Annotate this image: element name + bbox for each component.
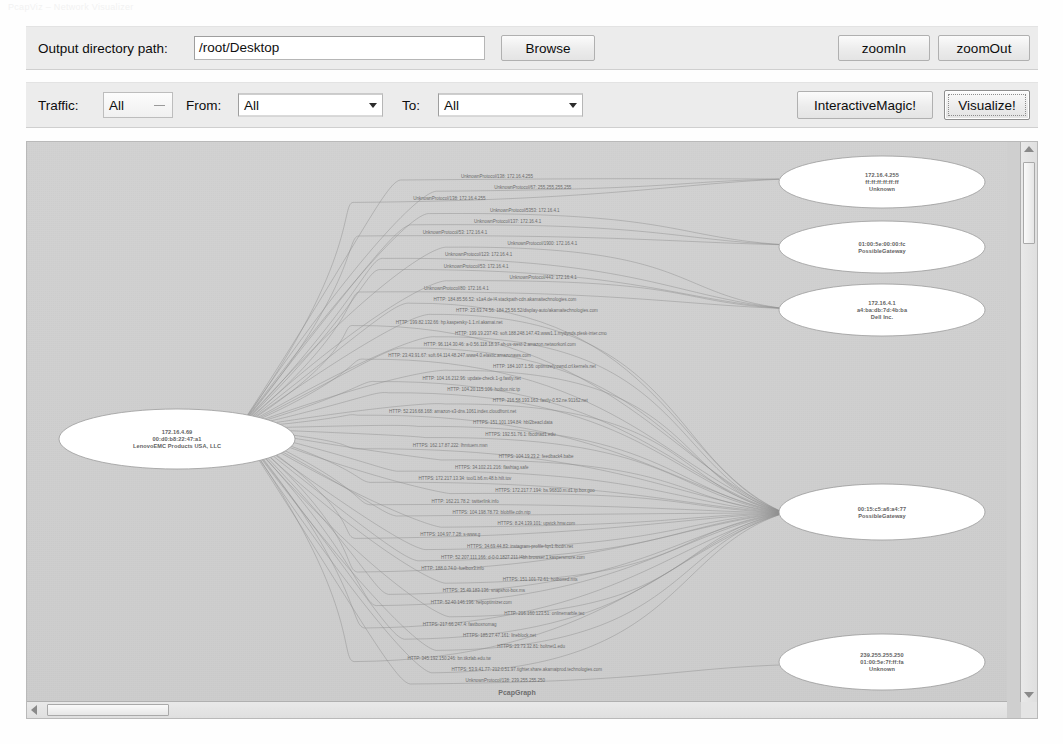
vertical-scrollbar[interactable]: [1020, 142, 1037, 702]
graph-node[interactable]: 00:15:c5:a6:a4:77PossibleGateway: [779, 484, 985, 540]
edge-label: UnknownProtocol/123: 172.16.4.1: [445, 252, 513, 257]
chevron-down-icon: [369, 103, 377, 108]
interactive-magic-button[interactable]: InteractiveMagic!: [797, 91, 933, 119]
edge-label: HTTP: 184.107.1.56: optimizely.cwnd.crl.…: [493, 364, 596, 369]
edge-label: HTTPS: 8.24.139.101: upstck.hnw.com: [498, 521, 576, 526]
edge-label: UnknownProtocol/137: 172.16.4.1: [474, 219, 542, 224]
node-label-line: 172.16.4.1: [868, 300, 895, 306]
scroll-up-icon[interactable]: [1024, 146, 1034, 152]
edge-label: UnknownProtocol/80: 172.16.4.1: [424, 286, 489, 291]
edge-label: UnknownProtocol/53: 172.16.4.1: [423, 230, 488, 235]
graph-node[interactable]: 172.16.4.255ff:ff:ff:ff:ff:ffUnknown: [779, 156, 985, 208]
window-title-strip: PcapViz – Network Visualizer: [0, 0, 1063, 14]
graph-edge: [242, 433, 779, 640]
from-select[interactable]: All: [238, 94, 383, 117]
node-label-line: ff:ff:ff:ff:ff:ff: [865, 179, 898, 185]
edge-label: HTTP: 52.207.111.166: d-0-0.1827.211.l4b…: [441, 555, 585, 560]
vertical-scroll-thumb[interactable]: [1023, 162, 1035, 244]
horizontal-scroll-thumb[interactable]: [47, 704, 169, 716]
zoom-out-button[interactable]: zoomOut: [938, 35, 1030, 61]
edge-label: UnknownProtocol/443: 172.16.4.1: [510, 275, 578, 280]
node-label-line: 172.16.4.69: [162, 429, 193, 435]
graph-edge: [242, 431, 779, 572]
edge-label: UnknownProtocol/53: 172.16.4.1: [444, 264, 509, 269]
application-window: PcapViz – Network Visualizer Output dire…: [0, 0, 1063, 744]
chevron-down-icon: [569, 103, 577, 108]
scrollbar-corner: [1021, 702, 1037, 718]
edge-label: HTTP: 345.192.150.246: bn.tikzlab.edu.tw: [407, 656, 491, 661]
graph-canvas[interactable]: UnknownProtocol/138: 172.16.4.255Unknown…: [27, 142, 1007, 702]
horizontal-scrollbar[interactable]: [27, 701, 1007, 718]
edge-label: HTTPS: 151.101.72.61: hotboxed.mts: [503, 577, 579, 582]
edge-label: HTTPS: 104.97.7.28: s-www.g: [420, 532, 481, 537]
graph-edge: [242, 415, 779, 512]
graph-node[interactable]: 172.16.4.1a4:ba:db:7d:4b:baDell Inc.: [779, 284, 985, 336]
node-label-line: PossibleGateway: [858, 513, 906, 519]
node-label-line: 239.255.255.250: [860, 652, 904, 658]
edge-label: UnknownProtocol/1900: 172.16.4.1: [507, 241, 577, 246]
to-label: To:: [402, 98, 420, 113]
edge-label: HTTPS: 34.69.44.83: instagram-profile-fq…: [467, 544, 574, 549]
edge-label: HTTPS: 35.49.183.136: snapshot-box.ms: [443, 588, 526, 593]
edge-label: HTTP: 216.58.193.163: fastly-0.52.ne.911…: [493, 398, 589, 403]
edge-label: HTTP: 199.82.132.66: hp.kaspersky-1.1.nl…: [396, 320, 504, 325]
graph-node[interactable]: 239.255.255.25001:00:5e:7f:ff:faUnknown: [779, 634, 985, 690]
to-select[interactable]: All: [438, 94, 583, 117]
edge-label: HTTPS: 172.217.7.194: bs.96810.m.d1.tp.b…: [495, 488, 595, 493]
edge-label: HTTPS: 185.27.47.161: lineblock.net: [463, 633, 537, 638]
node-label-line: 01:00:5e:00:00:fc: [858, 241, 905, 247]
edge-label: HTTPS: 172.217.13.34: tool1.b6.m.48.b.hi…: [418, 476, 512, 481]
traffic-select[interactable]: All: [103, 92, 173, 118]
chevron-down-icon: [154, 105, 165, 106]
edge-label: HTTPS: 53.9.41.77: 212.0.51.97.tighter.s…: [452, 667, 603, 672]
node-label-line: 172.16.4.255: [865, 172, 899, 178]
output-path-input[interactable]: /root/Desktop: [194, 36, 485, 60]
from-label: From:: [186, 98, 221, 113]
edge-label: HTTP: 104.20.115.106: hotbox.nic.tp: [447, 387, 520, 392]
browse-button[interactable]: Browse: [501, 35, 595, 61]
edge-label: HTTP: 52.40.146.196: helpoptimizer.com: [431, 600, 512, 605]
node-label-line: Dell Inc.: [871, 314, 894, 320]
node-label-line: 00:d0:b8:22:47:a1: [153, 436, 202, 442]
edge-label: HTTP: 199.19.237.43: soft.188.248.147.43…: [455, 331, 607, 336]
filter-toolbar: Traffic: All From: All To: All Interacti…: [26, 82, 1038, 128]
edge-label: HTTP: 184.85.56.52: s1a4.de-l4.stackpath…: [434, 297, 577, 302]
edge-label: UnknownProtocol/5353: 172.16.4.1: [490, 208, 560, 213]
edge-label: HTTP: 96.114.30.46: a-0.56.118.18.37.sh-…: [424, 342, 576, 347]
edge-label: UnknownProtocol/138: 172.16.4.255: [461, 174, 534, 179]
visualize-button[interactable]: Visualize!: [944, 90, 1030, 120]
graph-node[interactable]: 01:00:5e:00:00:fcPossibleGateway: [779, 221, 985, 273]
output-path-label: Output directory path:: [38, 41, 168, 56]
traffic-select-value: All: [109, 98, 124, 113]
edge-label: HTTPS: 34.102.21.216: flashtag.safe: [455, 465, 529, 470]
edge-label: HTTPS: 104.198.78.73: blobfile.cdn.ntp: [452, 510, 531, 515]
edge-label: HTTP: 104.16.212.96: update-check.1-g.fa…: [422, 376, 521, 381]
edge-label: HTTP: 23.43.91.67: soft.64.114.48.247.ww…: [388, 353, 531, 358]
edge-label: HTTP: 216.160.123.51: onlinemarble.tec: [504, 611, 585, 616]
output-toolbar: Output directory path: /root/Desktop Bro…: [26, 26, 1038, 70]
edge-label: HTTPS: 151.101.194.84: hbl2beacl.data: [473, 420, 553, 425]
graph-node[interactable]: 172.16.4.6900:d0:b8:22:47:a1LenovoEMC Pr…: [59, 409, 295, 469]
edge-label: HTTP: 188.0.74.0: fuelbox3.info: [421, 566, 484, 571]
graph-viewport[interactable]: UnknownProtocol/138: 172.16.4.255Unknown…: [26, 141, 1038, 719]
to-select-value: All: [444, 98, 459, 113]
from-select-value: All: [244, 98, 259, 113]
zoom-in-button[interactable]: zoomIn: [838, 35, 930, 61]
edge-label: HTTPS: 162.17.87.222: lhmtuem.msn: [413, 443, 488, 448]
graph-edge: [242, 429, 779, 512]
edge-label: HTTP: 23.63.74.56: 184.25.56.52/display-…: [456, 308, 598, 313]
edge-label: HTTPS: 192.51.76.1: fbcdnad1.edu: [485, 432, 556, 437]
edge-label: UnknownProtocol/138: 239.255.255.250: [465, 678, 545, 683]
edge-label: HTTPS: 23.73.32.81: boltnet1.edu: [497, 644, 565, 649]
node-label-line: Unknown: [869, 666, 895, 672]
scroll-down-icon[interactable]: [1024, 692, 1034, 698]
graph-caption: PcapGraph: [498, 689, 535, 697]
edge-label: UnknownProtocol/138: 172.16.4.255: [413, 196, 486, 201]
edge-label: HTTPS: 217.66.247.4: fastboxnomag: [423, 622, 497, 627]
scroll-left-icon[interactable]: [31, 705, 37, 715]
node-label-line: a4:ba:db:7d:4b:ba: [857, 307, 908, 313]
node-label-line: 01:00:5e:7f:ff:fa: [860, 659, 904, 665]
edge-label: HTTP: 52.216.68.168: amazon-s3-dns.1061.…: [389, 409, 517, 414]
node-label-line: PossibleGateway: [858, 248, 906, 254]
node-label-line: 00:15:c5:a6:a4:77: [858, 506, 906, 512]
